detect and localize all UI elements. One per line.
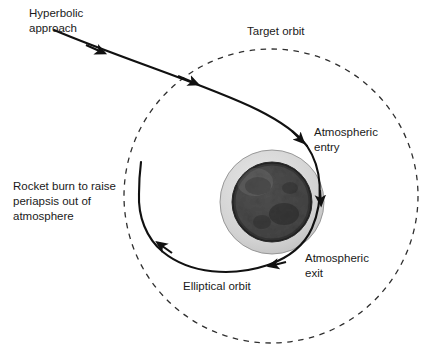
label-target-orbit: Target orbit [247,25,305,37]
atmospheric-entry-arrow [292,131,303,142]
diagram-canvas: Hyperbolic approach Target orbit Atmosph… [0,0,439,361]
label-atmospheric-exit: Atmospheric exit [305,252,372,279]
label-atmospheric-entry: Atmospheric entry [314,126,381,153]
elliptical-orbit-arrow [158,243,172,253]
atmosphere-pass-arrow [320,190,321,204]
label-hyperbolic-approach: Hyperbolic approach [29,7,87,34]
label-elliptical-orbit: Elliptical orbit [183,280,252,292]
label-rocket-burn: Rocket burn to raise periapsis out of at… [13,180,119,222]
rocket-burn-path [139,162,141,194]
orbital-insertion-diagram: Hyperbolic approach Target orbit Atmosph… [0,0,439,361]
